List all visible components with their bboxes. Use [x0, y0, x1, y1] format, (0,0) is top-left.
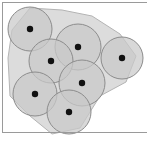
disc-middle-left-center-dot — [48, 58, 54, 64]
disc-upper-middle-center-dot — [75, 44, 81, 50]
disc-cover-diagram — [0, 0, 149, 143]
disc-top-left-center-dot — [27, 26, 33, 32]
disc-bottom-left-center-dot — [32, 91, 38, 97]
disc-bottom-center-center-dot — [66, 109, 72, 115]
figure-root — [0, 0, 149, 143]
disc-center-center-dot — [79, 80, 85, 86]
disc-right-center-dot — [119, 55, 125, 61]
